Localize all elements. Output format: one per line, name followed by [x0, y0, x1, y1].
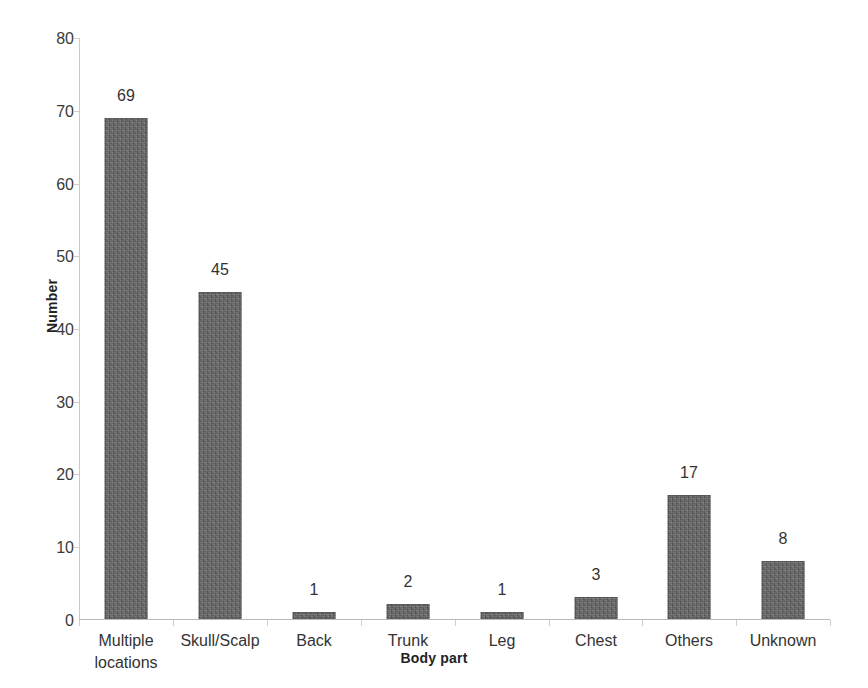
table-row[interactable]: [293, 612, 336, 619]
table-row[interactable]: [387, 604, 430, 619]
x-tick-mark-8: [830, 620, 831, 626]
bar-value-label: 69: [117, 88, 135, 104]
x-category-label-chest: Chest: [549, 630, 643, 652]
x-axis-title: Body part: [0, 650, 868, 666]
table-row[interactable]: [105, 118, 148, 619]
bar-value-label: 2: [404, 574, 413, 590]
x-tick-mark-6: [642, 620, 643, 626]
y-tick-label-70: 70: [40, 104, 74, 120]
x-category-label-others: Others: [642, 630, 736, 652]
x-tick-mark-2: [267, 620, 268, 626]
x-category-label-skull-scalp: Skull/Scalp: [173, 630, 267, 652]
y-tick-label-80: 80: [40, 31, 74, 47]
x-category-label-leg: Leg: [455, 630, 549, 652]
y-tick-label-60: 60: [40, 177, 74, 193]
bar-value-label: 3: [592, 567, 601, 583]
bar-value-label: 17: [680, 465, 698, 481]
bar-group-chest: 3: [549, 38, 643, 620]
y-tick-label-30: 30: [40, 395, 74, 411]
table-row[interactable]: [668, 495, 711, 619]
table-row[interactable]: [481, 612, 524, 619]
table-row[interactable]: [199, 292, 242, 619]
y-tick-label-10: 10: [40, 540, 74, 556]
y-axis-tick-labels: 80 70 60 50 40 30 20 10 0: [36, 0, 74, 688]
bar-group-multiple-locations: 69: [79, 38, 173, 620]
bar-value-label: 8: [779, 531, 788, 547]
table-row[interactable]: [762, 561, 805, 619]
bar-group-leg: 1: [455, 38, 549, 620]
bar-group-others: 17: [642, 38, 736, 620]
bar-value-label: 1: [498, 582, 507, 598]
y-tick-label-0: 0: [40, 613, 74, 629]
table-row[interactable]: [575, 597, 618, 619]
y-tick-label-20: 20: [40, 467, 74, 483]
x-category-label-trunk: Trunk: [361, 630, 455, 652]
x-tick-mark-4: [455, 620, 456, 626]
x-category-label-unknown: Unknown: [736, 630, 830, 652]
plot-area: 69 45 1 2 1 3 17 8: [79, 38, 830, 620]
x-tick-mark-0: [79, 620, 80, 626]
y-tick-label-50: 50: [40, 249, 74, 265]
bar-value-label: 45: [211, 262, 229, 278]
bar-group-skull-scalp: 45: [173, 38, 267, 620]
bar-group-trunk: 2: [361, 38, 455, 620]
bar-chart-figure: Number 80 70 60 50 40 30 20 10 0: [0, 0, 868, 688]
x-tick-mark-1: [173, 620, 174, 626]
x-category-label-back: Back: [267, 630, 361, 652]
bar-group-back: 1: [267, 38, 361, 620]
bar-value-label: 1: [310, 582, 319, 598]
x-tick-mark-3: [361, 620, 362, 626]
y-tick-label-40: 40: [40, 322, 74, 338]
x-tick-mark-5: [549, 620, 550, 626]
x-tick-mark-7: [736, 620, 737, 626]
bar-group-unknown: 8: [736, 38, 830, 620]
